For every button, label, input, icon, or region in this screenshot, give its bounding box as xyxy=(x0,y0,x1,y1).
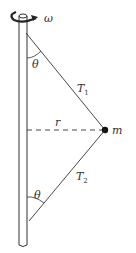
tension-lower-label: T2 xyxy=(76,170,88,185)
lower-string xyxy=(29,130,105,221)
tension-upper-label: T1 xyxy=(77,82,89,97)
rotating-pole-diagram: ω θ T1 r m θ T2 xyxy=(0,0,136,253)
omega-label: ω xyxy=(44,12,53,25)
mass-label: m xyxy=(112,124,122,137)
upper-string xyxy=(26,33,105,130)
radius-label: r xyxy=(55,116,61,129)
theta-bottom-label: θ xyxy=(34,189,41,202)
vertical-pole xyxy=(19,14,27,247)
upper-angle-arc xyxy=(27,51,41,58)
theta-top-label: θ xyxy=(32,58,39,71)
rotation-arrow-icon xyxy=(11,12,38,22)
